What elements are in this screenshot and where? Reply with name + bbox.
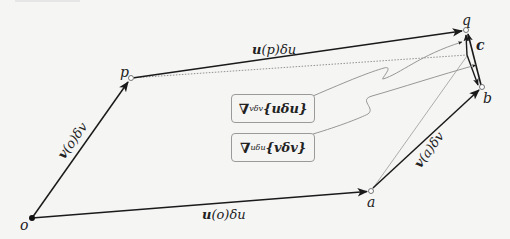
point-a	[369, 189, 374, 194]
label-q: q	[462, 13, 471, 27]
label-u-o: u(o)δu	[202, 208, 246, 221]
vector-u-o	[32, 192, 367, 219]
dotted-line-p-corner	[131, 55, 467, 78]
nabla-argument: {uδu}	[263, 101, 307, 116]
label-p: p	[120, 65, 129, 79]
nabla-symbol: ∇	[239, 101, 250, 117]
vector-corner-to-q	[466, 35, 467, 55]
label-a: a	[367, 195, 375, 209]
vector-u-p	[134, 31, 462, 78]
point-o	[29, 215, 35, 221]
label-b: b	[483, 91, 492, 105]
label-c: c	[476, 38, 485, 52]
point-p	[129, 76, 134, 81]
annotation-box-nabla-v-u: ∇vδv{uδu}	[231, 94, 315, 123]
label-o: o	[20, 218, 28, 232]
label-u-p: u(p)δu	[252, 43, 296, 56]
connector-box1	[313, 42, 462, 96]
annotation-box-nabla-u-v: ∇uδu{vδv}	[231, 133, 315, 162]
connector-box2	[313, 65, 476, 134]
nabla-argument: {vδv}	[266, 140, 307, 155]
light-line-a-corner	[371, 56, 467, 191]
vector-v-o	[32, 82, 128, 218]
nabla-subscript: vδv	[249, 104, 263, 113]
nabla-symbol: ∇	[240, 140, 251, 156]
vector-corner-to-b	[467, 55, 478, 85]
point-q	[464, 28, 469, 33]
point-b	[480, 85, 485, 90]
nabla-subscript: uδu	[250, 143, 265, 152]
